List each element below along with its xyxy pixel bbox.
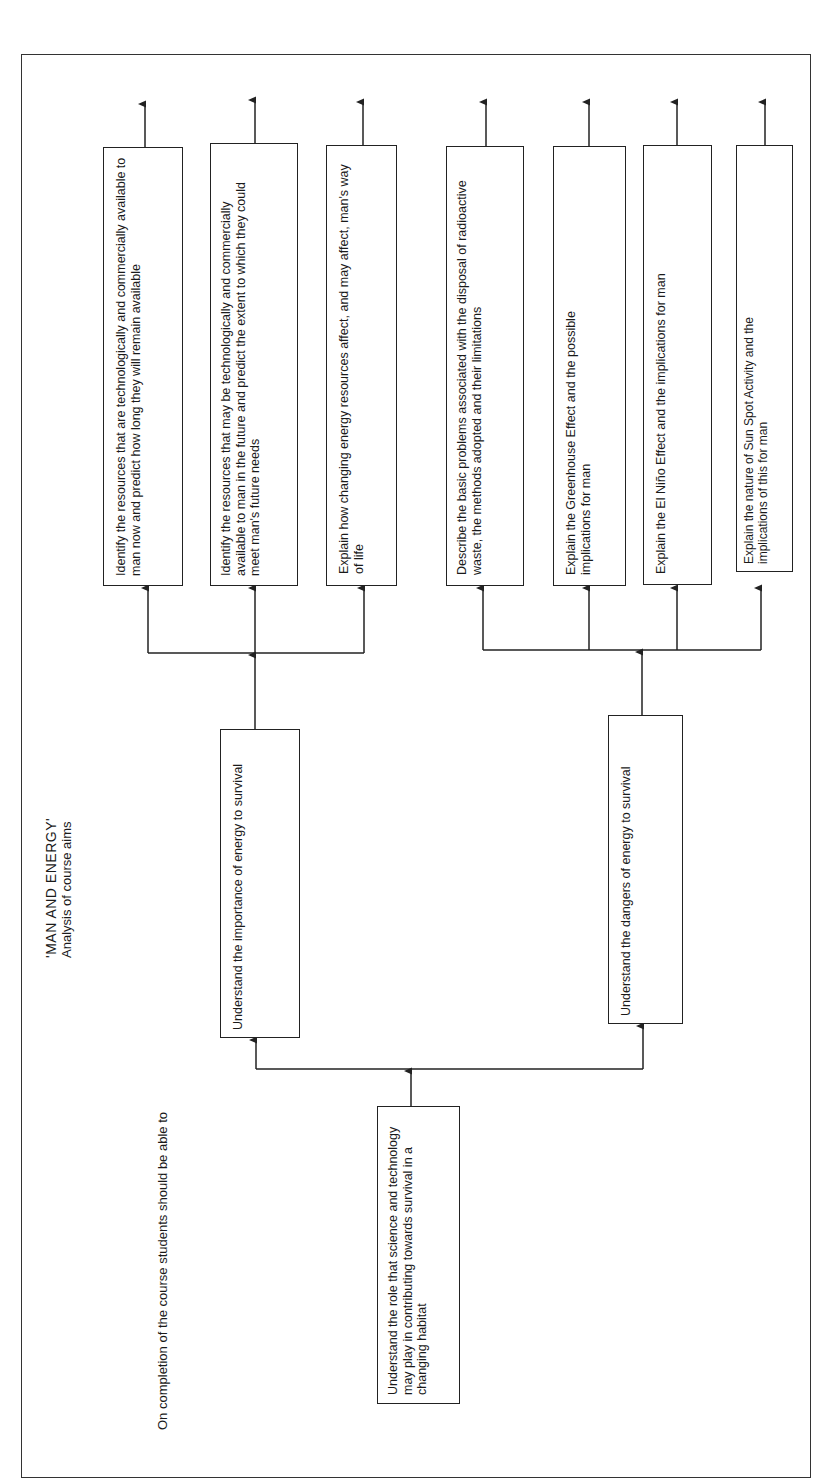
diagram-title: 'MAN AND ENERGY' Analysis of course aims	[44, 818, 74, 958]
root-aim-text: Understand the role that science and tec…	[386, 1117, 430, 1395]
leaf-box-future-resources: Identify the resources that may be techn…	[210, 143, 298, 586]
branch-box-dangers: Understand the dangers of energy to surv…	[608, 715, 683, 1024]
branch-box-importance: Understand the importance of energy to s…	[220, 729, 300, 1038]
leaf-text-el-nino: Explain the El Niño Effect and the impli…	[654, 154, 669, 574]
leaf-box-sun-spot: Explain the nature of Sun Spot Activity …	[736, 145, 793, 572]
title-line-1: 'MAN AND ENERGY'	[44, 818, 59, 958]
leaf-box-el-nino: Explain the El Niño Effect and the impli…	[643, 145, 712, 585]
leaf-text-current-resources: Identify the resources that are technolo…	[114, 156, 143, 576]
leaf-text-greenhouse: Explain the Greenhouse Effect and the po…	[564, 305, 593, 575]
intro-text: On completion of the course students sho…	[155, 1112, 170, 1430]
leaf-box-greenhouse: Explain the Greenhouse Effect and the po…	[553, 146, 626, 586]
branch-text-dangers: Understand the dangers of energy to surv…	[619, 726, 634, 1016]
branch-text-importance: Understand the importance of energy to s…	[231, 740, 246, 1030]
leaf-box-radioactive-waste: Describe the basic problems associated w…	[446, 146, 524, 586]
title-line-2: Analysis of course aims	[59, 818, 74, 958]
root-aim-box: Understand the role that science and tec…	[377, 1106, 460, 1404]
leaf-text-radioactive-waste: Describe the basic problems associated w…	[455, 155, 484, 575]
leaf-text-future-resources: Identify the resources that may be techn…	[219, 151, 263, 576]
leaf-text-way-of-life: Explain how changing energy resources af…	[337, 154, 366, 574]
leaf-box-current-resources: Identify the resources that are technolo…	[103, 147, 183, 586]
leaf-text-sun-spot: Explain the nature of Sun Spot Activity …	[743, 274, 770, 564]
leaf-box-way-of-life: Explain how changing energy resources af…	[326, 145, 397, 586]
